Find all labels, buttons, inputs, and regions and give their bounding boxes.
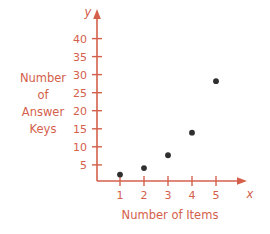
y-tick-label-25: 25 — [73, 87, 87, 100]
y-axis-variable-label: y — [84, 5, 92, 19]
x-tick-label-1: 1 — [117, 189, 124, 202]
scatter-plot-figure: 40 35 30 25 20 15 10 5 1 2 3 4 5 y x — [0, 0, 270, 234]
x-tick-label-3: 3 — [165, 189, 172, 202]
data-point — [141, 165, 147, 171]
y-tick-label-10: 10 — [73, 141, 87, 154]
x-tick-label-4: 4 — [189, 189, 196, 202]
y-tick-label-15: 15 — [73, 123, 87, 136]
x-axis-tick-labels: 1 2 3 4 5 — [117, 189, 220, 202]
y-tick-label-20: 20 — [73, 105, 87, 118]
y-tick-label-5: 5 — [80, 159, 87, 172]
x-axis-title: Number of Items — [122, 208, 219, 222]
y-tick-label-40: 40 — [73, 33, 87, 46]
chart-canvas: 40 35 30 25 20 15 10 5 1 2 3 4 5 y x — [0, 0, 270, 234]
data-point — [189, 130, 195, 136]
data-point — [117, 172, 123, 178]
y-axis-arrowhead — [93, 9, 101, 19]
axes-group — [93, 9, 247, 185]
x-axis-variable-label: x — [246, 187, 254, 201]
y-axis-title: Number of Answer Keys — [20, 71, 66, 136]
data-point — [213, 78, 219, 84]
data-points-group — [117, 78, 219, 177]
x-tick-label-2: 2 — [141, 189, 148, 202]
y-tick-label-35: 35 — [73, 51, 87, 64]
y-tick-label-30: 30 — [73, 69, 87, 82]
y-axis-title-line-3: Answer — [22, 105, 65, 119]
y-axis-tick-labels: 40 35 30 25 20 15 10 5 — [73, 33, 87, 172]
data-point — [165, 152, 171, 158]
y-axis-title-line-1: Number — [20, 71, 66, 85]
y-axis-title-line-2: of — [37, 88, 49, 102]
x-tick-label-5: 5 — [213, 189, 220, 202]
x-axis-arrowhead — [237, 177, 247, 185]
y-axis-title-line-4: Keys — [30, 122, 57, 136]
